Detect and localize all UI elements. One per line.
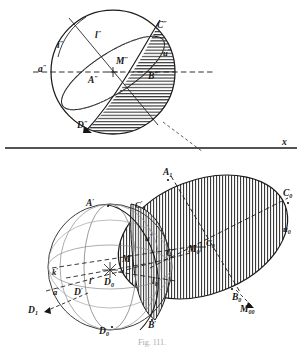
- label-M00: M00: [239, 304, 254, 315]
- label-D0b: D0: [98, 326, 109, 337]
- label-lp: l′: [89, 275, 93, 286]
- center-mark-Mprime: [102, 262, 118, 278]
- label-B0: B0: [231, 292, 241, 303]
- label-A2: A″: [87, 74, 98, 85]
- figure-plate: i″ l″ C″ a″ A″ M″ u″ B″ D″ x: [0, 0, 304, 349]
- label-u0: u0: [283, 224, 291, 235]
- ground-line-label: x: [281, 137, 287, 147]
- lower-figure: A1 C′1 A′ C0 u0 u′ M0 C0 C′ M′ k′ l′ D0 …: [27, 152, 304, 337]
- geometry-drawing: i″ l″ C″ a″ A″ M″ u″ B″ D″ x: [0, 0, 304, 349]
- label-Dp: D′: [73, 286, 83, 297]
- label-ap: a′: [53, 286, 59, 297]
- ground-line-group: x: [5, 137, 297, 148]
- upper-shaded-cap: [40, 5, 190, 155]
- label-C0: C0: [283, 188, 292, 199]
- label-C1p: C′1: [135, 199, 146, 211]
- label-A1: A1: [162, 167, 172, 178]
- label-Bp: B′: [147, 319, 156, 330]
- label-C2: C″: [157, 19, 167, 30]
- arrow-D1: [44, 307, 51, 314]
- label-D0c: D0: [103, 277, 114, 288]
- label-M2: M″: [115, 55, 128, 66]
- figure-caption: Fig. 111.: [138, 338, 166, 347]
- label-kp: k′: [52, 266, 58, 277]
- label-l2: l″: [95, 29, 102, 40]
- label-D1: D1: [27, 305, 38, 316]
- upper-figure: i″ l″ C″ a″ A″ M″ u″ B″ D″: [33, 5, 214, 155]
